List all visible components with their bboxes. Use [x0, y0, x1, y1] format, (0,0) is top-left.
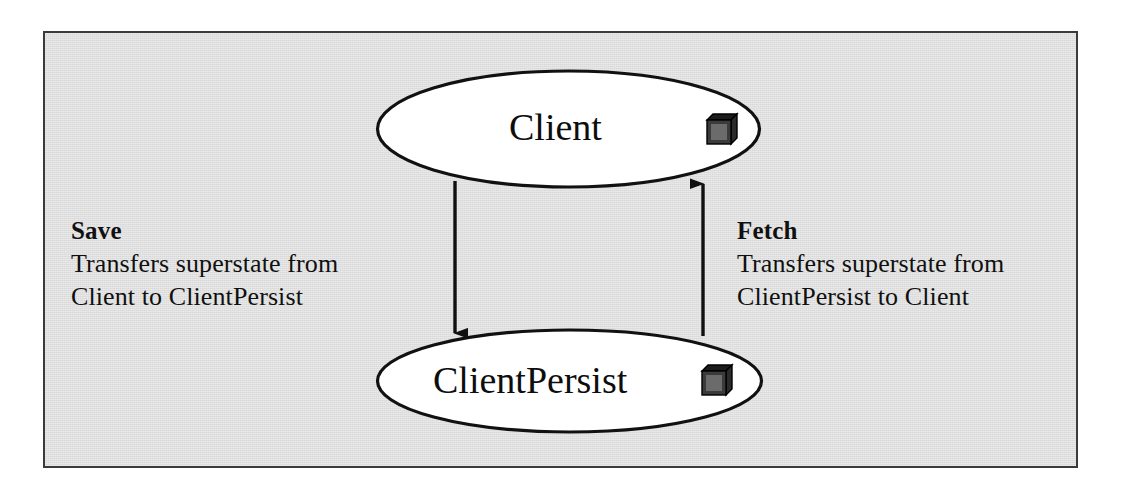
annotation-fetch-title: Fetch: [737, 214, 1004, 247]
annotation-fetch-line-2: ClientPersist to Client: [737, 280, 1004, 313]
annotation-fetch: Fetch Transfers superstate from ClientPe…: [737, 214, 1004, 313]
diagram-canvas: Client ClientPersist Save Transfers supe…: [0, 0, 1122, 493]
annotation-save-line-1: Transfers superstate from: [71, 247, 338, 280]
component-cube-icon: [705, 112, 739, 146]
annotation-save: Save Transfers superstate from Client to…: [71, 214, 338, 313]
component-cube-icon: [700, 363, 734, 397]
node-label-client: Client: [509, 108, 602, 146]
annotation-save-title: Save: [71, 214, 338, 247]
annotation-save-line-2: Client to ClientPersist: [71, 280, 338, 313]
node-label-clientpersist: ClientPersist: [433, 361, 627, 399]
annotation-fetch-line-1: Transfers superstate from: [737, 247, 1004, 280]
